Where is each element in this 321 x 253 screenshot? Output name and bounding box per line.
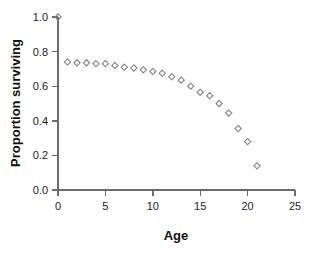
y-axis-ticks xyxy=(52,17,58,190)
y-tick-label: 0.2 xyxy=(33,149,48,161)
data-point-marker xyxy=(178,77,184,83)
x-axis-title: Age xyxy=(164,228,189,243)
data-point-marker xyxy=(188,83,194,89)
data-point-marker xyxy=(159,70,165,76)
data-point-marker xyxy=(83,60,89,66)
data-point-marker xyxy=(121,64,127,70)
data-point-marker xyxy=(112,62,118,68)
x-tick-label: 5 xyxy=(102,200,108,212)
x-tick-label: 0 xyxy=(55,200,61,212)
data-point-marker xyxy=(197,89,203,95)
survivorship-chart: 0.00.20.40.60.81.0 0510152025 Age Propor… xyxy=(0,0,321,253)
data-point-marker xyxy=(131,65,137,71)
y-tick-label: 0.8 xyxy=(33,46,48,58)
axes xyxy=(58,17,295,190)
data-point-marker xyxy=(245,138,251,144)
data-point-marker xyxy=(169,74,175,80)
y-tick-label: 0.6 xyxy=(33,80,48,92)
data-point-marker xyxy=(93,61,99,67)
data-point-marker xyxy=(150,68,156,74)
y-axis-tick-labels: 0.00.20.40.60.81.0 xyxy=(33,11,48,196)
data-point-markers xyxy=(55,14,260,169)
data-point-marker xyxy=(216,100,222,106)
data-point-marker xyxy=(102,61,108,67)
x-axis-tick-labels: 0510152025 xyxy=(55,200,301,212)
data-point-marker xyxy=(235,125,241,131)
x-axis-ticks xyxy=(58,190,295,196)
y-tick-label: 1.0 xyxy=(33,11,48,23)
x-tick-label: 10 xyxy=(147,200,159,212)
y-axis-title: Proportion surviving xyxy=(8,39,23,167)
data-point-marker xyxy=(207,93,213,99)
data-point-marker xyxy=(226,110,232,116)
y-tick-label: 0.0 xyxy=(33,184,48,196)
chart-canvas: 0.00.20.40.60.81.0 0510152025 Age Propor… xyxy=(0,0,321,253)
data-point-marker xyxy=(140,67,146,73)
data-point-marker xyxy=(74,60,80,66)
x-tick-label: 25 xyxy=(289,200,301,212)
data-point-marker xyxy=(64,59,70,65)
x-tick-label: 20 xyxy=(241,200,253,212)
data-point-marker xyxy=(254,163,260,169)
y-tick-label: 0.4 xyxy=(33,115,48,127)
x-tick-label: 15 xyxy=(194,200,206,212)
